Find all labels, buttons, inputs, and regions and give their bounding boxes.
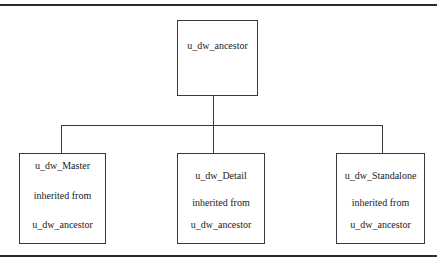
node-u-dw-master: u_dw_Master inherited from u_dw_ancestor (19, 153, 106, 244)
node-name: u_dw_Master (20, 160, 105, 172)
node-relation: inherited from (178, 197, 264, 209)
child-connector-standalone (382, 125, 383, 154)
child-connector-master (61, 125, 62, 154)
bottom-rule (0, 255, 437, 257)
node-relation: inherited from (337, 197, 424, 209)
node-name: u_dw_Standalone (337, 170, 424, 182)
horizontal-connector (61, 125, 383, 126)
node-parent: u_dw_ancestor (178, 219, 264, 231)
node-u-dw-standalone: u_dw_Standalone inherited from u_dw_ance… (336, 153, 425, 244)
node-relation: inherited from (20, 190, 105, 202)
node-parent: u_dw_ancestor (337, 219, 424, 231)
node-parent: u_dw_ancestor (20, 219, 105, 231)
node-u-dw-detail: u_dw_Detail inherited from u_dw_ancestor (177, 153, 265, 244)
child-connector-detail (213, 125, 214, 154)
node-name: u_dw_Detail (178, 170, 264, 182)
root-vertical-connector (213, 96, 214, 126)
top-rule (0, 4, 437, 6)
node-u-dw-ancestor: u_dw_ancestor (177, 20, 258, 96)
node-label: u_dw_ancestor (178, 40, 257, 52)
